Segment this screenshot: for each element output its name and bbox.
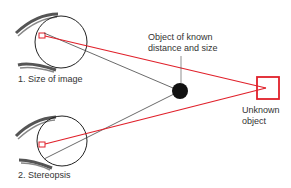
- eye1-caption: 1. Size of image: [18, 74, 83, 85]
- ray-bottom-unknown: [45, 88, 266, 144]
- unknown-object-label-line1: Unknown: [242, 105, 280, 116]
- depth-perception-diagram: Object of known distance and size Unknow…: [0, 0, 291, 188]
- eye2-caption: 2. Stereopsis: [18, 170, 71, 181]
- known-object-label-line1: Object of known: [148, 32, 218, 43]
- ray-bottom-known: [44, 91, 180, 159]
- unknown-object-label-line2: object: [242, 116, 280, 127]
- known-object-label: Object of known distance and size: [148, 32, 218, 54]
- diagram-graphics: [0, 0, 291, 188]
- known-object-dot: [172, 83, 188, 99]
- known-object-label-line2: distance and size: [148, 43, 218, 54]
- unknown-object-label: Unknown object: [242, 105, 280, 127]
- unknown-object-square: [257, 77, 279, 99]
